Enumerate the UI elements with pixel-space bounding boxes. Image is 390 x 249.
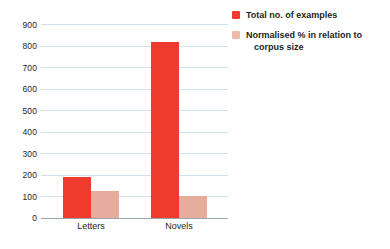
legend-label-normalised-line1: Normalised % in relation to — [246, 30, 362, 40]
bars-layer — [41, 24, 228, 218]
legend-item-normalised: Normalised % in relation to corpus size — [232, 29, 388, 53]
bar-novels-total — [151, 42, 179, 218]
x-axis-category-label-letters: Letters — [63, 221, 119, 231]
bar-letters-normalised — [91, 191, 119, 218]
y-axis-tick-label: 600 — [0, 84, 37, 94]
y-axis-tick-label: 300 — [0, 149, 37, 159]
y-axis-tick-label: 900 — [0, 20, 37, 30]
legend-label-normalised: Normalised % in relation to corpus size — [246, 29, 362, 53]
x-axis-line — [41, 218, 228, 219]
legend-item-total: Total no. of examples — [232, 9, 388, 21]
legend-swatch-icon — [232, 31, 240, 39]
legend: Total no. of examples Normalised % in re… — [232, 9, 388, 61]
x-axis-category-label-novels: Novels — [151, 221, 207, 231]
legend-label-total: Total no. of examples — [246, 9, 337, 21]
legend-swatch-icon — [232, 11, 240, 19]
y-axis-tick-label: 400 — [0, 127, 37, 137]
y-axis-tick-label: 100 — [0, 192, 37, 202]
bar-chart: 900 800 700 600 500 400 300 200 100 0 Le… — [0, 0, 390, 249]
y-axis-tick-label: 200 — [0, 170, 37, 180]
y-axis-tick-label: 700 — [0, 63, 37, 73]
y-axis-tick-label: 800 — [0, 41, 37, 51]
legend-label-normalised-line2: corpus size — [246, 41, 362, 53]
y-axis-tick-label: 0 — [0, 213, 37, 223]
y-axis-tick-label: 500 — [0, 106, 37, 116]
bar-novels-normalised — [179, 196, 207, 218]
bar-letters-total — [63, 177, 91, 218]
